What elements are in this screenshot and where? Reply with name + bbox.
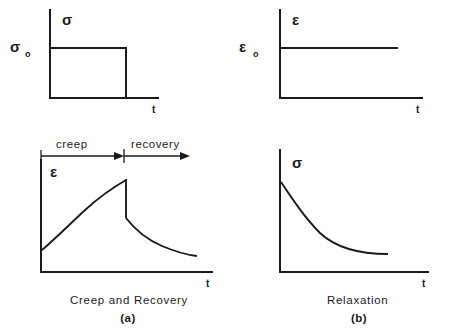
figure-container: σ σ o t ε ε o t (0, 0, 449, 331)
annotation-label-creep: creep (56, 138, 88, 150)
caption-title-b: Relaxation (327, 294, 388, 306)
panel-stress-input-step: σ σ o t (10, 10, 158, 115)
y-axis-label-sigma: σ (62, 11, 72, 28)
level-label-epsilon-zero: ε (239, 38, 246, 55)
x-axis-label-t: t (422, 278, 426, 289)
curve-stress-relaxation (281, 182, 388, 254)
y-axis-label-epsilon: ε (50, 163, 57, 180)
annotation-creep-recovery-span: creep recovery (41, 138, 190, 163)
annotation-creep-arrowhead (114, 152, 124, 160)
figure-svg: σ σ o t ε ε o t (0, 0, 449, 331)
caption-tag-b: (b) (351, 312, 367, 324)
panel-creep-recovery-response: creep recovery ε t (41, 138, 212, 289)
x-axis-label-t: t (206, 278, 210, 289)
x-axis-label-t: t (416, 104, 420, 115)
axes-strain-input-step (280, 10, 422, 98)
annotation-recovery-arrowhead (180, 152, 190, 160)
level-label-epsilon-zero-subscript: o (253, 49, 259, 59)
y-axis-label-epsilon: ε (292, 11, 299, 28)
level-label-sigma-zero-subscript: o (25, 49, 31, 59)
curve-stress-step (50, 48, 126, 98)
caption-group-a: Creep and Recovery (a) (70, 294, 188, 324)
x-axis-label-t: t (152, 104, 156, 115)
curve-creep-rise (42, 180, 126, 250)
caption-group-b: Relaxation (b) (327, 294, 388, 324)
caption-title-a: Creep and Recovery (70, 294, 188, 306)
caption-tag-a: (a) (120, 312, 136, 324)
annotation-label-recovery: recovery (131, 138, 180, 150)
y-axis-label-sigma: σ (292, 154, 302, 171)
panel-relaxation-response: σ t (280, 150, 428, 289)
curve-delayed-recovery (126, 218, 197, 256)
panel-strain-input-step: ε ε o t (239, 10, 422, 115)
level-label-sigma-zero: σ (10, 38, 20, 55)
